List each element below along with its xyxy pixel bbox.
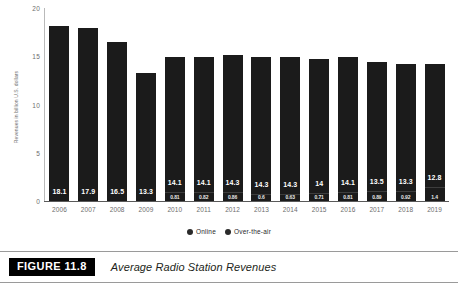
bar-segment-online: 0.81 <box>165 192 185 201</box>
bar-segment-over-the-air: 13.3 <box>396 64 416 191</box>
stacked-bar: 13.30.92 <box>396 64 416 201</box>
figure-title: Average Radio Station Revenues <box>111 261 276 273</box>
bars-group: 18.117.916.513.314.10.8114.10.8214.30.86… <box>45 8 449 201</box>
bar-value-label: 14.3 <box>223 179 243 186</box>
bar-segment-over-the-air: 14.3 <box>280 57 300 194</box>
bar-value-label-online: 0.81 <box>165 194 185 200</box>
bar-segment-online: 1.4 <box>425 187 445 201</box>
bar-value-label-online: 0.71 <box>309 194 329 200</box>
stacked-bar: 17.9 <box>78 28 98 201</box>
bar-value-label: 14.3 <box>280 181 300 188</box>
y-tick-label: 15 <box>18 53 40 60</box>
bar-group: 14.30.63 <box>280 57 300 201</box>
stacked-bar: 14.30.63 <box>280 57 300 201</box>
bar-segment-over-the-air: 18.1 <box>49 26 69 201</box>
bar-group: 14.10.81 <box>338 57 358 201</box>
bar-value-label-online: 0.82 <box>194 194 214 200</box>
bar-value-label: 14.1 <box>338 179 358 186</box>
bar-group: 140.71 <box>309 59 329 201</box>
bar-value-label-online: 0.92 <box>396 194 416 200</box>
bar-segment-over-the-air: 14.1 <box>194 57 214 192</box>
figure-container: Revenues in billion U.S. dollars 0510152… <box>0 0 458 283</box>
legend-item: Online <box>187 228 216 235</box>
bar-segment-online: 0.82 <box>194 192 214 201</box>
figure-caption: FIGURE 11.8 Average Radio Station Revenu… <box>0 252 458 282</box>
figure-number-badge: FIGURE 11.8 <box>9 258 95 276</box>
stacked-bar: 140.71 <box>309 59 329 201</box>
bar-segment-over-the-air: 14.3 <box>251 57 271 194</box>
bar-value-label-online: 0.81 <box>338 194 358 200</box>
stacked-bar: 13.3 <box>136 73 156 201</box>
bar-value-label: 18.1 <box>49 188 69 195</box>
bar-segment-online: 0.6 <box>251 194 271 201</box>
stacked-bar: 14.10.82 <box>194 57 214 201</box>
bar-segment-online: 0.89 <box>367 191 387 201</box>
bar-segment-over-the-air: 14 <box>309 59 329 193</box>
bar-value-label: 13.5 <box>367 178 387 185</box>
stacked-bar: 18.1 <box>49 26 69 201</box>
bar-value-label: 16.5 <box>107 188 127 195</box>
bar-group: 13.3 <box>136 73 156 201</box>
bar-value-label-online: 1.4 <box>425 194 445 200</box>
bar-value-label-online: 0.89 <box>367 194 387 200</box>
bar-group: 12.81.4 <box>425 64 445 201</box>
stacked-bar: 16.5 <box>107 42 127 201</box>
bar-value-label: 14 <box>309 180 329 187</box>
bar-value-label: 14.3 <box>251 181 271 188</box>
bar-group: 16.5 <box>107 42 127 201</box>
bar-segment-online: 0.71 <box>309 193 329 201</box>
bar-segment-online: 0.86 <box>223 192 243 201</box>
y-tick-label: 20 <box>18 5 40 12</box>
bar-segment-over-the-air: 14.1 <box>165 57 185 192</box>
circle-marker <box>187 229 193 235</box>
legend-label: Over-the-air <box>234 228 271 235</box>
y-tick-label: 5 <box>18 149 40 156</box>
legend-label: Online <box>196 228 216 235</box>
y-tick-label: 10 <box>18 101 40 108</box>
bar-segment-over-the-air: 14.1 <box>338 57 358 192</box>
bar-segment-online: 0.63 <box>280 194 300 201</box>
bar-group: 17.9 <box>78 28 98 201</box>
bar-value-label: 13.3 <box>396 178 416 185</box>
stacked-bar: 14.10.81 <box>338 57 358 201</box>
bar-value-label: 14.1 <box>165 179 185 186</box>
bar-group: 18.1 <box>49 26 69 201</box>
bar-group: 14.10.82 <box>194 57 214 201</box>
bar-value-label: 13.3 <box>136 188 156 195</box>
bar-segment-online: 0.81 <box>338 192 358 201</box>
bar-segment-over-the-air: 16.5 <box>107 42 127 201</box>
bar-value-label-online: 0.6 <box>251 194 271 200</box>
y-tick-label: 0 <box>18 198 40 205</box>
bar-value-label: 17.9 <box>78 188 98 195</box>
bar-segment-over-the-air: 17.9 <box>78 28 98 201</box>
bar-group: 13.30.92 <box>396 64 416 201</box>
bar-value-label-online: 0.86 <box>223 194 243 200</box>
stacked-bar: 12.81.4 <box>425 64 445 201</box>
stacked-bar: 14.30.86 <box>223 55 243 201</box>
x-axis-line <box>44 201 449 202</box>
chart-canvas: Revenues in billion U.S. dollars 0510152… <box>0 0 458 215</box>
bar-segment-online: 0.92 <box>396 191 416 201</box>
bar-segment-over-the-air: 14.3 <box>223 55 243 192</box>
bar-group: 14.30.86 <box>223 55 243 201</box>
chart-legend: OnlineOver-the-air <box>0 228 458 235</box>
bar-group: 14.30.6 <box>251 57 271 201</box>
bar-group: 14.10.81 <box>165 57 185 201</box>
bar-segment-over-the-air: 13.5 <box>367 62 387 191</box>
stacked-bar: 14.10.81 <box>165 57 185 201</box>
legend-item: Over-the-air <box>225 228 271 235</box>
bar-segment-over-the-air: 12.8 <box>425 64 445 187</box>
circle-marker <box>225 229 231 235</box>
bar-value-label-online: 0.63 <box>280 194 300 200</box>
stacked-bar: 13.50.89 <box>367 62 387 201</box>
bar-value-label: 14.1 <box>194 179 214 186</box>
bar-value-label: 12.8 <box>425 174 445 181</box>
x-tick-label: 2019 <box>415 206 455 213</box>
stacked-bar: 14.30.6 <box>251 57 271 201</box>
bar-segment-over-the-air: 13.3 <box>136 73 156 201</box>
bar-group: 13.50.89 <box>367 62 387 201</box>
